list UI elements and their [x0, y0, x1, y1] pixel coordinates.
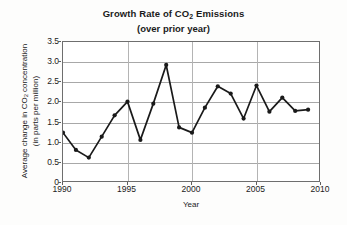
y-axis-tick-mark — [58, 182, 61, 183]
chart-title-text-pre: Growth Rate of CO — [103, 8, 190, 19]
y-axis-tick-label: 2.0 — [33, 97, 59, 105]
y-axis-tick-mark — [58, 162, 61, 163]
x-axis-tick-label: 2000 — [171, 184, 211, 194]
x-axis-tick-label: 1995 — [107, 184, 147, 194]
x-axis-tick-label: 1990 — [42, 184, 82, 194]
chart-figure: Growth Rate of CO2 Emissions (over prior… — [0, 0, 347, 225]
y-axis-tick-label: 1.5 — [33, 118, 59, 126]
data-point-marker — [280, 95, 284, 99]
y-axis-tick-mark — [58, 41, 61, 42]
y-axis-tick-label: 0.5 — [33, 158, 59, 166]
data-point-marker — [267, 110, 271, 114]
y-axis-tick-mark — [58, 81, 61, 82]
chart-subtitle: (over prior year) — [0, 23, 347, 35]
data-point-marker — [74, 148, 78, 152]
y-axis-tick-mark — [58, 101, 61, 102]
data-point-marker — [190, 131, 194, 135]
data-point-marker — [164, 63, 168, 67]
plot-area — [62, 41, 320, 182]
y-axis-tick-label: 3.5 — [33, 37, 59, 45]
y-axis-label-pre: Average change in CO — [20, 97, 29, 178]
y-axis-tick-mark — [58, 122, 61, 123]
data-point-marker — [100, 135, 104, 139]
data-point-marker — [138, 138, 142, 142]
x-axis-tick-label: 2005 — [236, 184, 276, 194]
x-axis-tick-mark — [62, 182, 63, 185]
y-axis-label-subscript: 2 — [23, 94, 29, 97]
line-series-svg — [63, 42, 321, 183]
y-axis-label-post: concentration — [20, 44, 29, 94]
data-point-marker — [151, 102, 155, 106]
x-axis-tick-mark — [320, 182, 321, 185]
chart-title-text-post: Emissions — [193, 8, 244, 19]
x-axis-tick-label: 2010 — [300, 184, 340, 194]
data-point-marker — [87, 156, 91, 160]
chart-title-block: Growth Rate of CO2 Emissions (over prior… — [0, 8, 347, 35]
data-point-marker — [216, 84, 220, 88]
chart-title: Growth Rate of CO2 Emissions — [0, 8, 347, 23]
data-point-marker — [242, 116, 246, 120]
data-point-marker — [203, 106, 207, 110]
data-point-marker — [293, 109, 297, 113]
x-axis-tick-mark — [127, 182, 128, 185]
data-point-marker — [113, 113, 117, 117]
data-point-marker — [125, 100, 129, 104]
y-axis-tick-labels: 00.51.01.52.02.53.03.5 — [30, 41, 59, 182]
data-point-marker — [254, 83, 258, 87]
data-point-marker — [177, 125, 181, 129]
y-axis-tick-label: 1.0 — [33, 138, 59, 146]
x-axis-tick-mark — [256, 182, 257, 185]
y-axis-tick-label: 3.0 — [33, 57, 59, 65]
x-axis-label: Year — [62, 200, 320, 209]
y-axis-tick-mark — [58, 61, 61, 62]
y-axis-tick-label: 2.5 — [33, 77, 59, 85]
x-axis-tick-mark — [191, 182, 192, 185]
data-point-marker — [306, 108, 310, 112]
y-axis-tick-mark — [58, 142, 61, 143]
data-point-marker — [229, 91, 233, 95]
